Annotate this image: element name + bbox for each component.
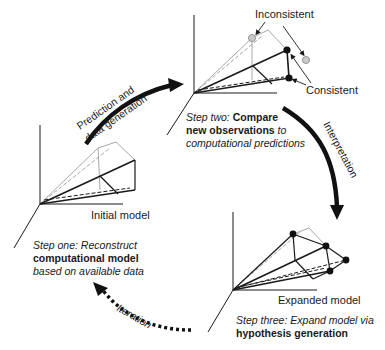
inconsistent-point-1	[248, 34, 255, 41]
consistent-label: Consistent	[306, 84, 358, 97]
step-three-text: Step three: Expand model via hypothesis …	[236, 314, 374, 340]
consistent-point-2	[285, 74, 292, 81]
expanded-model-label: Expanded model	[278, 294, 361, 307]
step-one-text: Step one: Reconstruct computational mode…	[33, 239, 144, 278]
initial-model-label: Initial model	[91, 209, 150, 222]
step-two-prefix: Step two:	[186, 111, 230, 123]
interpretation-label: Interpretation	[321, 119, 361, 179]
consistent-point-1	[283, 46, 290, 53]
iteration-label: Iteration	[115, 301, 154, 330]
step-three-prefix: Step three:	[236, 314, 287, 326]
step-one-prefix: Step one:	[33, 239, 78, 251]
step-two-text: Step two: Compare new observations to co…	[186, 111, 305, 150]
initial-model-graphic	[14, 125, 135, 248]
inconsistent-label: Inconsistent	[255, 8, 314, 21]
inconsistent-point-2	[302, 56, 309, 63]
